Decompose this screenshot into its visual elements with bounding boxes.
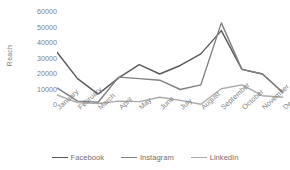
- y-axis-tick: 40000: [17, 39, 57, 47]
- legend-swatch-icon: [121, 157, 137, 158]
- x-axis-tick-labels: JanuaryFebruaryMarchAprilMayJuneJulyAugu…: [57, 105, 283, 150]
- y-axis-tick: 30000: [17, 55, 57, 63]
- legend-item-facebook[interactable]: Facebook: [52, 153, 104, 162]
- legend-item-linkedin[interactable]: LinkedIn: [191, 153, 239, 162]
- y-axis-title: Reach: [6, 34, 13, 78]
- legend-swatch-icon: [52, 157, 68, 158]
- y-axis-tick: 0: [17, 101, 57, 109]
- legend-swatch-icon: [191, 157, 207, 158]
- y-axis-tick: 50000: [17, 24, 57, 32]
- chart-legend: FacebookInstagramLinkedIn: [0, 149, 290, 165]
- y-axis-tick-labels: 6000050000400003000020000100000: [16, 0, 57, 120]
- legend-label: LinkedIn: [210, 153, 239, 162]
- legend-label: Instagram: [140, 153, 174, 162]
- legend-label: Facebook: [71, 153, 104, 162]
- y-axis-tick: 60000: [17, 8, 57, 16]
- legend-item-instagram[interactable]: Instagram: [121, 153, 174, 162]
- line-chart: Reach 6000050000400003000020000100000 Ja…: [0, 0, 290, 170]
- y-axis-tick: 10000: [17, 86, 57, 94]
- y-axis-tick: 20000: [17, 70, 57, 78]
